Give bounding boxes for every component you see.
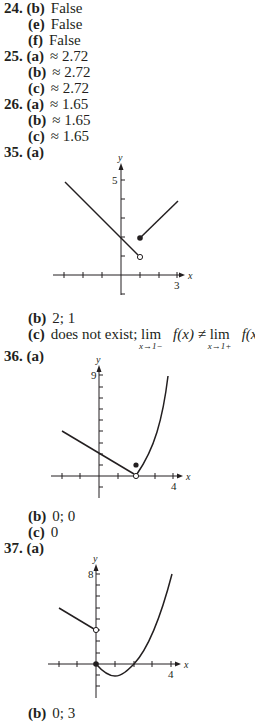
parabola-curve <box>96 574 172 676</box>
part-label: (b) <box>28 705 46 721</box>
x-axis-label: x <box>183 659 189 670</box>
open-point <box>93 627 98 632</box>
y-axis-label: y <box>92 553 98 564</box>
y-tick-label: 8 <box>88 568 94 580</box>
y-axis-arrow-icon <box>94 564 99 571</box>
answer-37b: (b)0; 3 <box>28 705 75 721</box>
part-value: 0; 3 <box>52 705 75 721</box>
graph-37: y x 8 4 <box>0 0 255 725</box>
x-tick-label: 4 <box>168 668 174 680</box>
left-piece-line <box>59 608 94 629</box>
x-axis-arrow-icon <box>175 662 181 667</box>
closed-point <box>93 661 99 667</box>
